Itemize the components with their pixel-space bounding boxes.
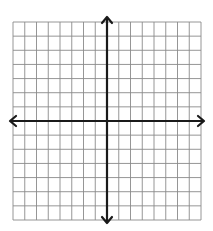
coordinate-plane [0, 0, 213, 231]
